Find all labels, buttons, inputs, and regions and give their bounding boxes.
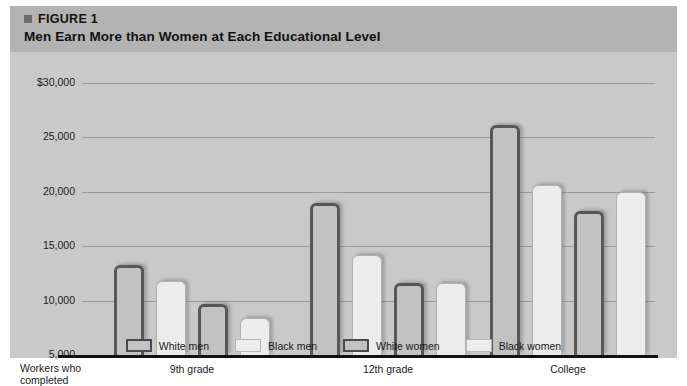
x-tick-label: 9th grade bbox=[94, 363, 290, 375]
square-bullet-icon bbox=[24, 15, 32, 23]
legend-label: White men bbox=[159, 340, 209, 352]
bars-layer bbox=[10, 52, 677, 358]
legend-item-white-men[interactable]: White men bbox=[126, 339, 209, 352]
legend-swatch-icon bbox=[466, 339, 492, 352]
figure-header: FIGURE 1 Men Earn More than Women at Eac… bbox=[10, 6, 677, 52]
legend-label: Black women bbox=[499, 340, 561, 352]
bar-chart: 5,00010,00015,00020,00025,000$30,000 9th… bbox=[10, 52, 677, 358]
x-tick-label: 12th grade bbox=[290, 363, 486, 375]
legend-label: Black men bbox=[268, 340, 317, 352]
bar-white-men-12th-grade bbox=[310, 203, 340, 355]
figure-number: FIGURE 1 bbox=[38, 12, 98, 26]
legend-item-white-women[interactable]: White women bbox=[343, 339, 440, 352]
legend-swatch-icon bbox=[126, 339, 152, 352]
legend-item-black-women[interactable]: Black women bbox=[466, 339, 561, 352]
chart-plot-area: 5,00010,00015,00020,00025,000$30,000 9th… bbox=[10, 52, 677, 358]
figure-card: FIGURE 1 Men Earn More than Women at Eac… bbox=[10, 6, 677, 358]
axis-note-line-2: completed bbox=[20, 374, 90, 386]
legend-item-black-men[interactable]: Black men bbox=[235, 339, 317, 352]
legend-swatch-icon bbox=[343, 339, 369, 352]
figure-title: Men Earn More than Women at Each Educati… bbox=[24, 29, 677, 44]
bar-black-men-college bbox=[532, 185, 562, 355]
bar-white-men-college bbox=[490, 125, 520, 355]
bar-white-women-college bbox=[574, 211, 604, 355]
bar-black-women-college bbox=[616, 192, 646, 355]
legend-swatch-icon bbox=[235, 339, 261, 352]
x-tick-label: College bbox=[470, 363, 666, 375]
legend-label: White women bbox=[376, 340, 440, 352]
axis-note-line-1: Workers who bbox=[20, 362, 90, 374]
chart-legend: White menBlack menWhite womenBlack women bbox=[10, 339, 677, 352]
figure-number-row: FIGURE 1 bbox=[24, 11, 677, 27]
x-axis-line bbox=[58, 355, 658, 358]
axis-origin-note: Workers who completed bbox=[20, 362, 90, 386]
